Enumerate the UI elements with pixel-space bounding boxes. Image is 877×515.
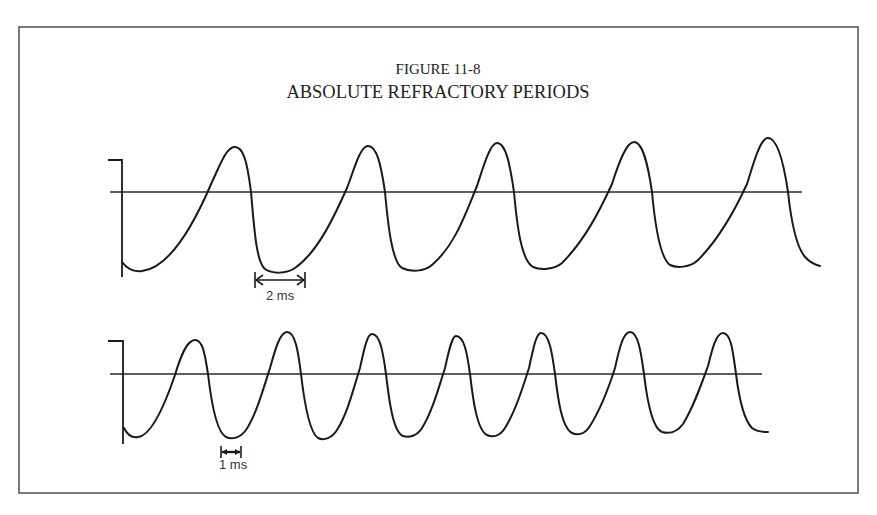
lower-stimulus-stem [108,341,123,444]
figure-title: ABSOLUTE REFRACTORY PERIODS [286,82,589,102]
lower-trace-group: 1 ms [108,332,768,472]
figure-canvas: FIGURE 11-8 ABSOLUTE REFRACTORY PERIODS … [0,0,877,515]
upper-action-potential-waveform [122,138,820,273]
figure-number: FIGURE 11-8 [396,61,481,77]
upper-scale-marker: 2 ms [255,272,305,303]
left-arrowhead-icon [222,449,227,455]
right-arrowhead-icon [235,449,240,455]
upper-stimulus-stem [108,160,122,277]
upper-scale-label: 2 ms [266,288,295,303]
lower-scale-marker: 1 ms [219,446,248,472]
lower-action-potential-waveform [124,332,768,439]
upper-trace-group: 2 ms [108,138,820,303]
lower-scale-label: 1 ms [219,457,248,472]
